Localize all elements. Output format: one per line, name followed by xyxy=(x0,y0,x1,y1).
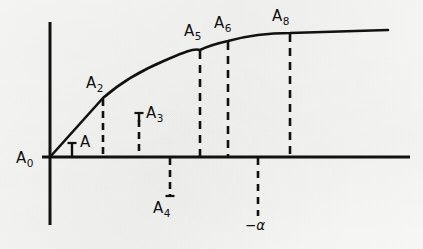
label-a2-base: A xyxy=(86,74,96,92)
label-a5: A5 xyxy=(184,23,201,39)
label-a3: A3 xyxy=(146,105,163,121)
label-a0: A0 xyxy=(16,150,33,166)
label-a5-sub: 5 xyxy=(195,30,202,42)
label-a3-base: A xyxy=(146,104,156,122)
label-a0-base: A xyxy=(16,149,26,167)
label-a6: A6 xyxy=(214,15,231,31)
label-a8-sub: 8 xyxy=(283,15,290,27)
alpha-glyph: α xyxy=(256,217,265,233)
figure-canvas: A0 A A2 A3 A4 A5 A6 A8 −α xyxy=(0,0,423,249)
graph-drawing xyxy=(0,0,423,249)
minus-sign: − xyxy=(245,217,256,233)
label-a-base: A xyxy=(80,133,90,151)
label-minus-alpha: −α xyxy=(245,219,265,233)
label-a2-sub: 2 xyxy=(97,82,104,94)
label-a4: A4 xyxy=(153,200,170,216)
label-a4-base: A xyxy=(153,199,163,217)
label-a8-base: A xyxy=(272,7,282,25)
label-a6-base: A xyxy=(214,14,224,32)
label-a: A xyxy=(80,134,90,150)
label-a6-sub: 6 xyxy=(225,22,232,34)
label-a8: A8 xyxy=(272,8,289,24)
label-a5-base: A xyxy=(184,22,194,40)
label-a4-sub: 4 xyxy=(164,207,171,219)
label-a3-sub: 3 xyxy=(157,112,164,124)
label-a2: A2 xyxy=(86,75,103,91)
label-a0-sub: 0 xyxy=(27,157,34,169)
